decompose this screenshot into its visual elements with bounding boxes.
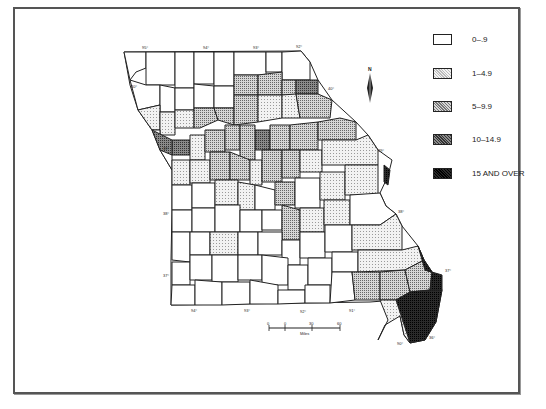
scale-bar: 0 0 30 60 Miles xyxy=(267,321,342,336)
lon-label-95-top: 95° xyxy=(142,45,148,50)
svg-text:30: 30 xyxy=(309,321,314,326)
legend-item-1-4.9: 1–4.9 xyxy=(433,66,492,80)
legend-label: 5–9.9 xyxy=(472,102,492,111)
legend-swatch xyxy=(433,34,452,45)
legend-item-0-0.9: 0–.9 xyxy=(433,32,488,46)
lat-label-39: 39° xyxy=(163,146,169,151)
svg-text:0: 0 xyxy=(284,321,287,326)
legend-swatch xyxy=(433,134,452,145)
lon-label-94-bottom: 94° xyxy=(191,308,197,313)
lon-label-93-top: 93° xyxy=(253,45,259,50)
legend-label: 1–4.9 xyxy=(472,69,492,78)
legend-swatch xyxy=(433,168,452,179)
lat-label-40: 40° xyxy=(131,84,137,89)
lat-label-37-east: 37° xyxy=(445,268,451,273)
lat-label-38: 38° xyxy=(163,211,169,216)
svg-text:Miles: Miles xyxy=(300,331,309,336)
lon-label-91-bottom: 91° xyxy=(349,308,355,313)
lon-label-92-top: 92° xyxy=(296,44,302,49)
lat-label-38-east: 38° xyxy=(398,209,404,214)
lon-label-92-bottom: 92° xyxy=(300,309,306,314)
lon-label-94-top: 94° xyxy=(203,45,209,50)
lon-label-90-bottom: 90° xyxy=(397,341,403,346)
legend-swatch xyxy=(433,68,452,79)
legend-label: 15 AND OVER xyxy=(472,169,524,178)
legend-swatch xyxy=(433,101,452,112)
lon-label-93-bottom: 93° xyxy=(244,308,250,313)
legend-item-5-9.9: 5–9.9 xyxy=(433,99,492,113)
legend-item-10-14.9: 10–14.9 xyxy=(433,132,501,146)
lat-label-39-east: 39° xyxy=(378,148,384,153)
legend-label: 10–14.9 xyxy=(472,135,501,144)
legend-item-15-and-over: 15 AND OVER xyxy=(433,166,524,180)
svg-text:60: 60 xyxy=(337,321,342,326)
svg-text:0: 0 xyxy=(267,321,270,326)
legend-label: 0–.9 xyxy=(472,35,488,44)
missouri-county-map: 95° 94° 93° 92° 94° 93° 92° 91° 90° 40° … xyxy=(0,0,546,409)
lat-label-40-east: 40° xyxy=(328,86,334,91)
lat-label-37: 37° xyxy=(163,273,169,278)
north-arrow-icon: N xyxy=(367,66,373,103)
svg-text:N: N xyxy=(368,66,372,72)
county-shapes xyxy=(124,51,442,343)
lat-label-36: 36° xyxy=(429,335,435,340)
